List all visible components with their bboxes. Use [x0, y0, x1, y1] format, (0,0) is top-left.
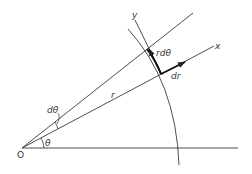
x-axis-label: x — [214, 41, 221, 51]
dr-label: dr — [171, 71, 182, 81]
arc-radius-r — [128, 29, 179, 165]
dtheta-label: dθ — [47, 105, 59, 115]
polar-element-diagram: O θ dθ r x y rdθ dr — [0, 0, 252, 174]
radial-line-theta-plus-dtheta — [22, 13, 193, 148]
theta-angle-arc — [41, 138, 44, 148]
radial-line-r — [22, 46, 214, 148]
y-axis-label: y — [131, 10, 138, 20]
origin-label: O — [17, 150, 24, 160]
theta-label: θ — [45, 138, 51, 148]
r-dtheta-label: rdθ — [156, 48, 171, 58]
